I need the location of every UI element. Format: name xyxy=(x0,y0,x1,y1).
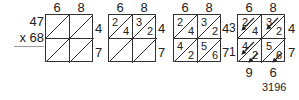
cell-ones: 4 xyxy=(123,26,129,37)
top-digit: 8 xyxy=(132,1,156,14)
left-diagonal-sum: 3 xyxy=(229,22,236,35)
top-digit: 6 xyxy=(237,1,261,14)
cell-ones: 6 xyxy=(212,50,218,61)
lattice-lines xyxy=(46,15,94,63)
side-digit: 4 xyxy=(158,22,165,35)
top-digit: 6 xyxy=(173,1,197,14)
side-digit: 4 xyxy=(95,22,102,35)
top-digit: 6 xyxy=(45,1,69,14)
cell-ones: 4 xyxy=(188,26,194,37)
top-digit: 6 xyxy=(108,1,132,14)
cell-ones: 4 xyxy=(252,26,258,37)
cell-ones: 2 xyxy=(212,26,218,37)
cell-ones: 2 xyxy=(276,26,282,37)
lattice-grid: 2 4 3 2 4 2 5 6 xyxy=(173,14,221,62)
side-digit: 7 xyxy=(95,46,102,59)
cell-ones: 2 xyxy=(188,50,194,61)
cell-tens: 3 xyxy=(266,17,272,28)
lattice-grid xyxy=(45,14,93,62)
cell-tens: 3 xyxy=(136,17,142,28)
cell-tens: 2 xyxy=(177,17,183,28)
bottom-diagonal-sum: 6 xyxy=(261,66,285,79)
top-digit: 8 xyxy=(69,1,93,14)
cell-tens: 3 xyxy=(201,17,207,28)
cell-ones: 2 xyxy=(147,26,153,37)
side-digit: 7 xyxy=(288,46,295,59)
multiplication-problem: 47 x 68 xyxy=(14,14,44,47)
lattice-grid: 2 4 3 2 xyxy=(108,14,156,62)
top-digit: 8 xyxy=(197,1,221,14)
cell-tens: 5 xyxy=(201,41,207,52)
cell-tens: 4 xyxy=(177,41,183,52)
top-digit: 8 xyxy=(261,1,285,14)
cell-tens: 4 xyxy=(242,41,248,52)
cell-tens: 5 xyxy=(266,41,272,52)
cell-tens: 2 xyxy=(242,17,248,28)
final-answer: 3196 xyxy=(262,81,286,93)
cell-ones: 2 xyxy=(252,50,258,61)
cell-tens: 2 xyxy=(112,17,118,28)
cell-ones: 6 xyxy=(276,50,282,61)
left-diagonal-sum: 1 xyxy=(229,46,236,59)
lattice-grid: 2 4 3 2 4 2 5 6 xyxy=(237,14,285,62)
multiplier: x 68 xyxy=(14,30,44,47)
multiplicand: 47 xyxy=(14,14,44,30)
bottom-diagonal-sum: 9 xyxy=(237,66,261,79)
side-digit: 4 xyxy=(288,22,295,35)
side-digit: 7 xyxy=(158,46,165,59)
